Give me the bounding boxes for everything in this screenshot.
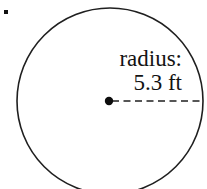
center-dot (105, 97, 113, 105)
radius-label-line-2: 5.3 ft (96, 71, 182, 95)
radius-label-line-1: radius: (96, 47, 182, 71)
list-bullet-icon (4, 10, 8, 14)
circle-radius-figure: radius: 5.3 ft (0, 0, 207, 189)
radius-label: radius: 5.3 ft (96, 47, 182, 95)
